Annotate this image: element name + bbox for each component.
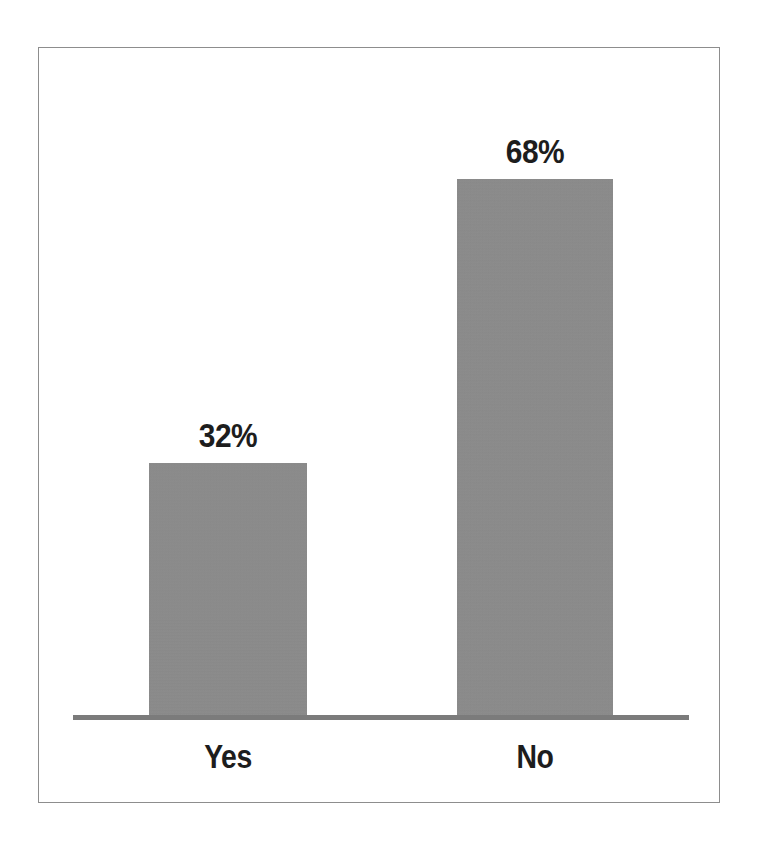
value-label-yes: 32% [158,416,297,455]
bar-yes[interactable] [149,463,307,715]
category-label-no: No [468,738,602,776]
axis-baseline [73,715,689,720]
value-label-no: 68% [466,132,603,171]
plot-area: 68% 32% Yes No [39,48,721,804]
category-label-yes: Yes [160,738,296,776]
figure-frame-border: 68% 32% Yes No [38,47,720,803]
bar-chart-figure: 68% 32% Yes No [0,0,759,842]
bar-no[interactable] [457,179,613,715]
